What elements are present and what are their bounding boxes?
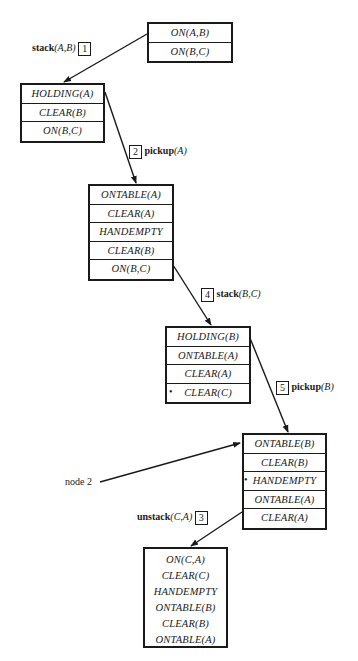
predicate: HANDEMPTY <box>145 584 226 600</box>
predicate: HOLDING(B) <box>167 328 249 347</box>
predicate: ONTABLE(A) <box>167 347 249 366</box>
predicate: ONTABLE(A) <box>145 632 226 648</box>
goal-node-4: HOLDING(B) ONTABLE(A) CLEAR(A) • CLEAR(C… <box>165 326 251 404</box>
predicate: CLEAR(A) <box>244 509 325 528</box>
predicate: CLEAR(A) <box>167 365 249 384</box>
node-2-annotation: node 2 <box>65 476 92 487</box>
predicate-text: HANDEMPTY <box>253 475 317 486</box>
predicate: CLEAR(B) <box>145 616 226 632</box>
predicate: CLEAR(B) <box>90 242 172 261</box>
goal-node-5: ONTABLE(B) CLEAR(B) • HANDEMPTY ONTABLE(… <box>242 433 327 530</box>
edge-n2-n3 <box>105 92 136 183</box>
predicate: HOLDING(A) <box>22 85 103 104</box>
predicate: ONTABLE(A) <box>244 491 325 510</box>
predicate: ON(B,C) <box>90 260 172 279</box>
predicate: CLEAR(B) <box>22 104 103 123</box>
predicate: CLEAR(C) <box>145 568 226 584</box>
predicate: CLEAR(B) <box>244 454 325 473</box>
predicate: ONTABLE(A) <box>90 186 172 205</box>
predicate: ONTABLE(B) <box>244 435 325 454</box>
step-number-box: 4 <box>201 288 214 302</box>
predicate: ON(B,C) <box>149 43 231 62</box>
edge-label-stack-ab: stack(A,B) 1 <box>32 42 91 56</box>
predicate: ON(A,B) <box>149 24 231 43</box>
predicate: ON(C,A) <box>145 552 226 568</box>
goal-node-1: ON(A,B) ON(B,C) <box>147 22 233 63</box>
predicate: CLEAR(A) <box>90 205 172 224</box>
edge-node2-pointer <box>100 443 240 482</box>
step-number-box: 3 <box>195 511 208 525</box>
edge-label-stack-bc: 4 stack(B,C) <box>201 288 261 302</box>
edge-label-pickup-a: 2 pickup(A) <box>129 145 187 159</box>
goal-node-2: HOLDING(A) CLEAR(B) ON(B,C) <box>20 83 105 143</box>
step-number-box: 5 <box>276 381 289 395</box>
step-number-box: 1 <box>78 42 91 56</box>
predicate-marked: • CLEAR(C) <box>167 384 249 403</box>
predicate: ONTABLE(B) <box>145 600 226 616</box>
edge-label-unstack-ca: unstack(C,A) 3 <box>137 511 208 525</box>
bullet-marker-icon: • <box>169 383 173 401</box>
goal-node-6: ON(C,A) CLEAR(C) HANDEMPTY ONTABLE(B) CL… <box>143 547 228 648</box>
step-number-box: 2 <box>129 145 142 159</box>
predicate: HANDEMPTY <box>90 223 172 242</box>
goal-node-3: ONTABLE(A) CLEAR(A) HANDEMPTY CLEAR(B) O… <box>88 184 174 281</box>
predicate: ON(B,C) <box>22 122 103 141</box>
predicate-marked: • HANDEMPTY <box>244 472 325 491</box>
predicate-text: CLEAR(C) <box>184 387 232 398</box>
bullet-marker-icon: • <box>244 471 248 489</box>
edge-label-pickup-b: 5 pickup(B) <box>276 381 334 395</box>
